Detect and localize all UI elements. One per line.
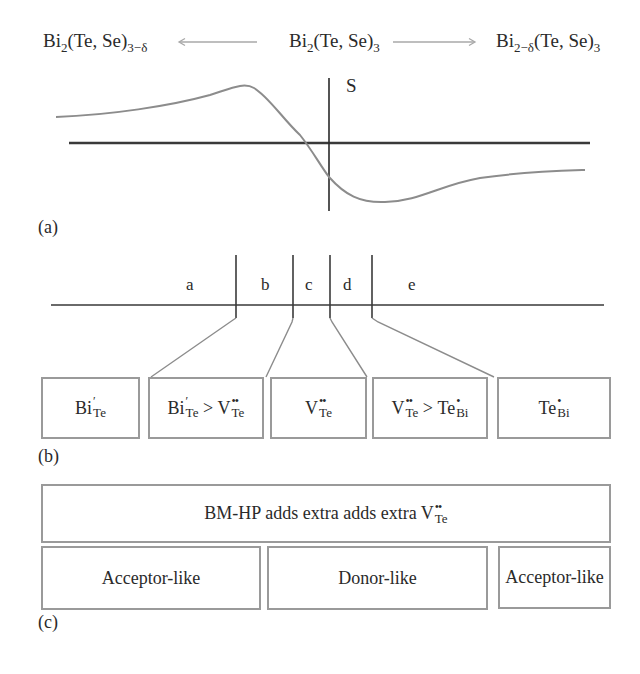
panel-label-c: (c) (38, 612, 58, 633)
region-label-d: d (343, 275, 352, 295)
acceptor-like-box-right: Acceptor-like (498, 546, 611, 609)
box3-base: V (305, 398, 318, 419)
defect-box-te-bi-antisite: Te•Bi (497, 377, 611, 439)
donor-like-box: Donor-like (267, 546, 488, 610)
panel-label-b: (b) (38, 446, 59, 467)
acceptor-like-left-label: Acceptor-like (102, 568, 201, 589)
donor-like-label: Donor-like (338, 568, 417, 589)
defect-box-bi-te-antisite: Bi′Te (41, 377, 140, 439)
bm-hp-effect-box: BM-HP adds extra adds extra V••Te (41, 484, 611, 543)
box4-b-sub: Bi (456, 406, 468, 419)
region-label-b: b (261, 275, 270, 295)
defect-box-v-te-gt-te-bi: V••Te > Te•Bi (372, 377, 488, 439)
bm-hp-text: BM-HP adds extra adds extra V (204, 503, 433, 524)
connector-bc (266, 318, 293, 377)
box2-b-sub: Te (232, 406, 245, 419)
defect-box-bi-te-gt-v-te: Bi′Te > V••Te (148, 377, 264, 439)
acceptor-like-box-left: Acceptor-like (41, 546, 261, 610)
box1-sub: Te (93, 406, 106, 419)
box2-a-sub: Te (186, 406, 199, 419)
arrow-left-icon (179, 39, 257, 46)
arrow-right-icon (393, 39, 475, 46)
region-label-a: a (186, 275, 194, 295)
box4-b-base: Te (437, 398, 455, 419)
box4-op: > (423, 398, 433, 419)
connector-cd (330, 318, 367, 377)
box5-sub: Bi (557, 406, 569, 419)
box5-base: Te (538, 398, 556, 419)
acceptor-like-right-label: Acceptor-like (505, 567, 604, 588)
box2-op: > (203, 398, 213, 419)
box2-b-base: V (218, 398, 231, 419)
box1-base: Bi (75, 398, 92, 419)
panel-label-a: (a) (38, 217, 58, 238)
box4-a-sub: Te (406, 406, 419, 419)
axis-label-s: S (346, 75, 357, 97)
defect-box-v-te: V••Te (270, 377, 367, 439)
region-label-e: e (408, 275, 416, 295)
connector-ab (151, 318, 236, 377)
box2-a-base: Bi (168, 398, 185, 419)
box4-a-base: V (392, 398, 405, 419)
bm-hp-sub: Te (435, 512, 448, 525)
connector-de (372, 318, 494, 377)
box3-sub: Te (319, 406, 332, 419)
region-label-c: c (305, 275, 313, 295)
